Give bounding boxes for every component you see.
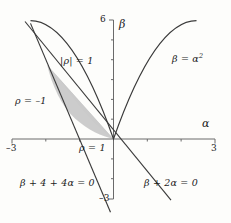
rho-positive-one-label: ρ = 1: [79, 143, 106, 153]
parabola-equation-text: β = α: [172, 53, 199, 64]
x-axis-min-tick-label: –3: [6, 144, 17, 153]
line-beta-plus-2alpha: [25, 22, 171, 201]
y-axis-min-tick-label: –3: [99, 194, 110, 203]
axes-group: [12, 20, 215, 199]
parabola-equation-label: β = α2: [172, 53, 203, 64]
y-axis-max-tick-label: 6: [100, 15, 106, 24]
plot-canvas: [0, 0, 231, 223]
y-axis-label: β: [119, 19, 126, 30]
line-left-equation-label: β + 4 + 4α = 0: [20, 178, 95, 188]
rho-negative-one-label: ρ = –1: [15, 96, 47, 106]
shaded-region-group: [47, 65, 113, 139]
parabola-exponent: 2: [199, 52, 203, 60]
x-axis-label: α: [202, 118, 210, 129]
y-axis-ticks: [109, 20, 114, 199]
admissible-region-lower-shape: [47, 65, 113, 139]
line-right-equation-label: β + 2α = 0: [144, 178, 198, 188]
rho-abs-one-label: |ρ| = 1: [60, 56, 93, 66]
x-axis-max-tick-label: 3: [211, 144, 217, 153]
math-plot-figure: β α 6 –3 –3 3 β = α2 β + 4 + 4α = 0 β + …: [0, 0, 231, 223]
